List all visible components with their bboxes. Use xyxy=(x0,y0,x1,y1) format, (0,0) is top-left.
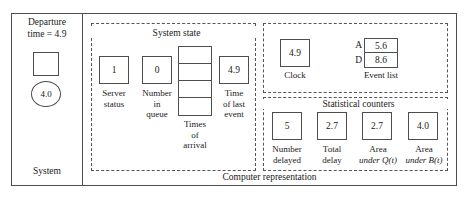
time-of-last-event-label-line1: Time xyxy=(212,88,256,99)
number-in-queue-label: Number in queue xyxy=(135,88,179,120)
number-in-queue-label-line2: in xyxy=(135,99,179,110)
times-of-arrival-label-line1: Times xyxy=(172,119,218,130)
times-of-arrival-label: Times of arrival xyxy=(172,119,218,151)
times-of-arrival-label-line2: of xyxy=(172,130,218,141)
simulation-snapshot-figure: Departure time = 4.9 4.0 System System s… xyxy=(0,0,468,201)
server-status-box: 1 xyxy=(99,56,129,84)
area-under-b-box: 4.0 xyxy=(408,112,438,140)
area-under-q-label-line1: Area xyxy=(354,144,402,155)
area-under-q-box: 2.7 xyxy=(362,112,392,140)
number-in-queue-label-line1: Number xyxy=(135,88,179,99)
number-delayed-label-line2: delayed xyxy=(266,155,308,166)
event-list-key-departure: D xyxy=(350,55,362,65)
departure-time-line1: Departure xyxy=(12,17,82,29)
times-of-arrival-cell xyxy=(179,98,211,115)
event-list-key-arrival: A xyxy=(350,40,362,50)
server-status-label-line1: Server xyxy=(92,88,136,99)
event-list-label: Event list xyxy=(346,70,416,81)
times-of-arrival-cell xyxy=(179,64,211,81)
times-of-arrival-cell xyxy=(179,81,211,98)
total-delay-box: 2.7 xyxy=(317,112,347,140)
area-under-b-label-line1: Area xyxy=(400,144,448,155)
time-of-last-event-label-line2: of last xyxy=(212,99,256,110)
departure-time-caption: Departure time = 4.9 xyxy=(12,17,82,40)
area-under-q-label: Area under Q(t) xyxy=(354,144,402,165)
event-list-table: 5.6 8.6 xyxy=(364,38,398,68)
number-delayed-box: 5 xyxy=(272,112,302,140)
area-under-b-label-line2: under B(t) xyxy=(400,155,448,166)
times-of-arrival-cell xyxy=(179,47,211,64)
system-panel-label: System xyxy=(12,166,82,176)
number-in-queue-box: 0 xyxy=(142,56,172,84)
server-status-label-line2: status xyxy=(92,99,136,110)
time-of-last-event-label-line3: event xyxy=(212,109,256,120)
departure-time-line2: time = 4.9 xyxy=(12,29,82,41)
time-of-last-event-box: 4.9 xyxy=(219,56,249,84)
event-list-row: 8.6 xyxy=(365,53,397,67)
server-status-label: Server status xyxy=(92,88,136,109)
statistical-counters-title: Statistical counters xyxy=(263,99,454,109)
clock-label: Clock xyxy=(275,70,315,81)
total-delay-label: Total delay xyxy=(311,144,353,165)
times-of-arrival-stack xyxy=(178,46,212,116)
total-delay-label-line1: Total xyxy=(311,144,353,155)
event-list-row: 5.6 xyxy=(365,39,397,53)
physical-server-box xyxy=(33,52,59,76)
area-under-q-label-line2: under Q(t) xyxy=(354,155,402,166)
times-of-arrival-label-line3: arrival xyxy=(172,140,218,151)
system-state-title: System state xyxy=(91,28,262,38)
area-under-b-label: Area under B(t) xyxy=(400,144,448,165)
total-delay-label-line2: delay xyxy=(311,155,353,166)
system-computer-divider xyxy=(82,13,83,186)
computer-representation-label: Computer representation xyxy=(91,172,448,182)
clock-box: 4.9 xyxy=(280,39,310,67)
number-delayed-label: Number delayed xyxy=(266,144,308,165)
time-of-last-event-label: Time of last event xyxy=(212,88,256,120)
physical-customer-circle: 4.0 xyxy=(31,81,61,107)
number-in-queue-label-line3: queue xyxy=(135,109,179,120)
number-delayed-label-line1: Number xyxy=(266,144,308,155)
